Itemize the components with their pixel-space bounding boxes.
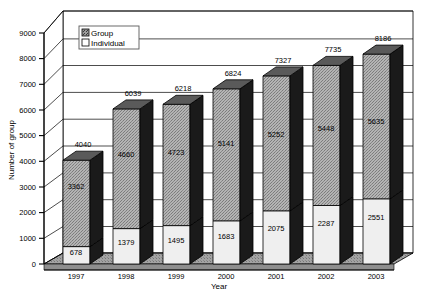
legend-label-group: Group	[91, 29, 114, 38]
bar-segment-value-individual: 1683	[218, 232, 235, 241]
x-tick-label: 2001	[268, 272, 285, 281]
x-tick-label: 2000	[218, 272, 235, 281]
chart-container: 9000 8000 7000 6000 5000 4000 3000 2000 …	[0, 0, 427, 291]
x-tick-label: 1997	[68, 272, 85, 281]
bar-segment-value-group: 5141	[218, 139, 235, 148]
bar-segment-value-individual: 2075	[268, 224, 285, 233]
bar-segment-value-individual: 1379	[118, 238, 135, 247]
bar-segment-value-group: 5448	[318, 124, 335, 133]
bar-segment-value-group: 3362	[68, 182, 85, 191]
y-tick-label: 7000	[19, 80, 36, 89]
legend-label-individual: Individual	[91, 39, 125, 48]
legend[interactable]: Group Individual	[79, 26, 139, 49]
bar-segment-value-group: 5635	[368, 117, 385, 126]
bar-group-2001[interactable]: 2075 5252 7327	[263, 56, 303, 265]
bar-segment-value-individual: 2551	[368, 213, 385, 222]
bar-group-2002[interactable]: 2287 5448 7735	[313, 45, 353, 264]
y-tick-label: 5000	[19, 131, 36, 140]
bar-total-value: 8186	[375, 34, 392, 43]
bar-total-value: 7327	[275, 56, 292, 65]
legend-item-group[interactable]: Group	[82, 29, 114, 38]
bar-group-1998[interactable]: 1379 4660 6039	[113, 89, 153, 265]
bar-group-2000[interactable]: 1683 5141 6824	[213, 69, 253, 265]
bar-total-value: 7735	[325, 45, 342, 54]
bar-total-value: 4040	[75, 140, 92, 149]
bar-total-value: 6824	[225, 69, 242, 78]
x-axis-title: Year	[211, 282, 228, 291]
bar-group-1997[interactable]: 678 3362 4040	[63, 140, 103, 264]
y-tick-label: 1000	[19, 234, 36, 243]
bar-total-value: 6039	[125, 89, 142, 98]
y-axis-title: Number of group	[7, 119, 16, 180]
y-tick-label: 2000	[19, 208, 36, 217]
y-tick-label: 6000	[19, 106, 36, 115]
x-tick-label: 1999	[168, 272, 185, 281]
y-tick-label: 8000	[19, 54, 36, 63]
bar-total-value: 6218	[175, 84, 192, 93]
bar-group-1999[interactable]: 1495 4723 6218	[163, 84, 203, 264]
bar-segment-value-individual: 1495	[168, 236, 185, 245]
y-tick-label: 3000	[19, 183, 36, 192]
y-tick-label: 0	[32, 260, 36, 269]
bar-segment-value-group: 5252	[268, 130, 285, 139]
group-swatch	[82, 29, 89, 36]
x-tick-label: 1998	[118, 272, 135, 281]
bar-group-2003[interactable]: 2551 5635 8186	[363, 34, 403, 264]
stacked-bar-chart-3d: 9000 8000 7000 6000 5000 4000 3000 2000 …	[0, 0, 427, 291]
x-tick-label: 2002	[318, 272, 335, 281]
y-tick-label: 4000	[19, 157, 36, 166]
bar-segment-value-individual: 678	[70, 248, 83, 257]
individual-swatch	[82, 39, 89, 46]
bar-segment-value-group: 4660	[118, 150, 135, 159]
bar-segment-value-group: 4723	[168, 148, 185, 157]
bar-segment-value-individual: 2287	[318, 219, 335, 228]
legend-item-individual[interactable]: Individual	[82, 39, 125, 48]
x-tick-label: 2003	[368, 272, 385, 281]
y-tick-label: 9000	[19, 29, 36, 38]
